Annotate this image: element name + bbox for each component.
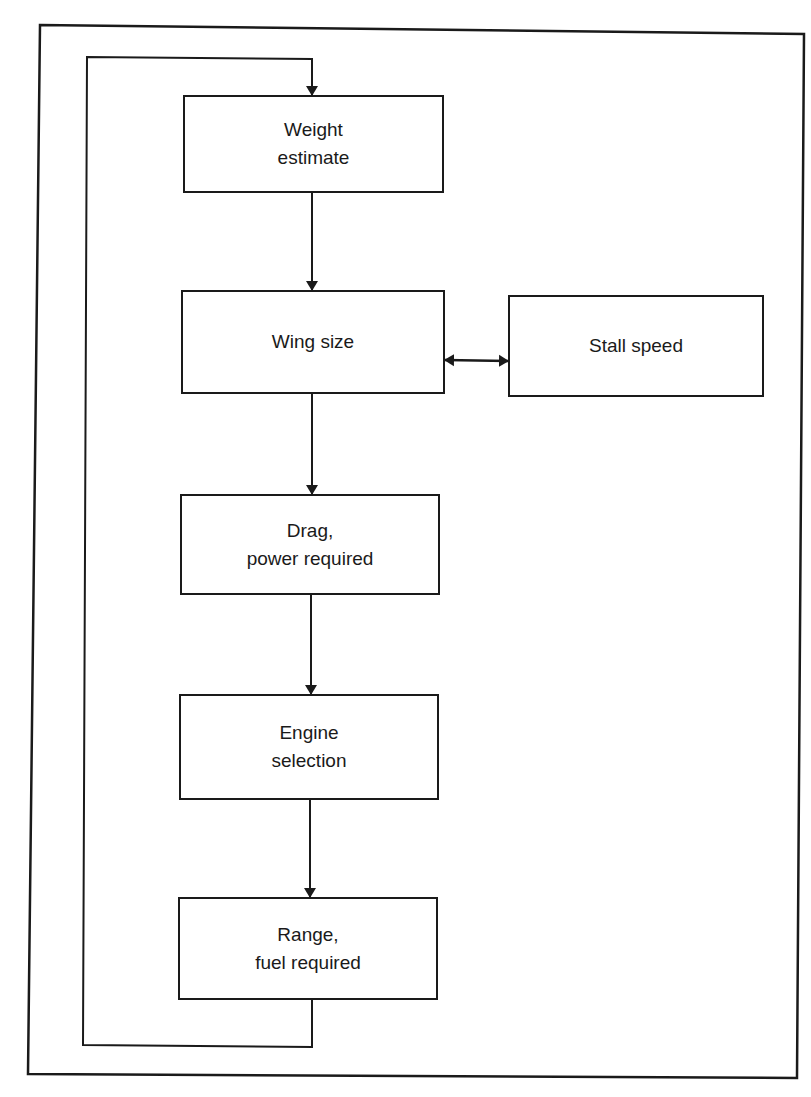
- node-range-fuel-required: Range,fuel required: [178, 897, 438, 1000]
- double-arrow-wing-stall: [445, 360, 508, 361]
- node-label: power required: [247, 545, 374, 573]
- node-label: Wing size: [272, 328, 354, 356]
- node-label: Range,: [255, 921, 361, 949]
- node-label: Stall speed: [589, 332, 683, 360]
- node-weight-estimate: Weightestimate: [183, 95, 444, 193]
- node-stall-speed: Stall speed: [508, 295, 764, 397]
- node-label: estimate: [278, 144, 350, 172]
- node-wing-size: Wing size: [181, 290, 445, 394]
- node-label: Engine: [272, 719, 347, 747]
- node-engine-selection: Engineselection: [179, 694, 439, 800]
- node-label: Weight: [278, 116, 350, 144]
- node-label: selection: [272, 747, 347, 775]
- node-drag-power-required: Drag,power required: [180, 494, 440, 595]
- node-label: Drag,: [247, 517, 374, 545]
- node-label: fuel required: [255, 949, 361, 977]
